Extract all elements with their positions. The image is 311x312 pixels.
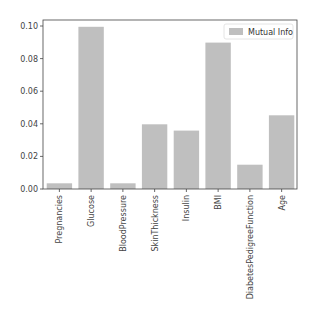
bar-pregnancies bbox=[47, 183, 72, 189]
y-axis: 0.000.020.040.060.080.10 bbox=[20, 22, 43, 194]
x-tick-label: BMI bbox=[214, 195, 223, 210]
bar-skinthickness bbox=[142, 124, 167, 189]
x-tick-label: SkinThickness bbox=[151, 195, 160, 252]
legend: Mutual Info bbox=[224, 24, 293, 39]
bar-bloodpressure bbox=[110, 183, 135, 189]
x-axis: PregnanciesGlucoseBloodPressureSkinThick… bbox=[55, 189, 286, 299]
y-tick-label: 0.02 bbox=[20, 152, 38, 161]
bars bbox=[47, 27, 295, 189]
y-tick-label: 0.04 bbox=[20, 120, 38, 129]
x-tick-label: BloodPressure bbox=[119, 195, 128, 252]
bar-age bbox=[269, 115, 294, 189]
legend-swatch bbox=[229, 28, 243, 35]
y-tick-label: 0.00 bbox=[20, 185, 38, 194]
x-tick-label: Age bbox=[278, 195, 287, 211]
x-tick-label: Pregnancies bbox=[55, 195, 64, 244]
x-tick-label: Insulin bbox=[182, 195, 191, 221]
x-tick-label: Glucose bbox=[87, 195, 96, 227]
bar-glucose bbox=[78, 27, 103, 189]
bar-bmi bbox=[205, 43, 230, 189]
x-tick-label: DiabetesPedigreeFunction bbox=[246, 195, 255, 299]
y-tick-label: 0.06 bbox=[20, 87, 38, 96]
y-tick-label: 0.08 bbox=[20, 55, 38, 64]
y-tick-label: 0.10 bbox=[20, 22, 38, 31]
mutual-info-bar-chart: 0.000.020.040.060.080.10 PregnanciesGluc… bbox=[0, 0, 311, 312]
legend-label: Mutual Info bbox=[248, 28, 293, 37]
bar-insulin bbox=[174, 131, 199, 189]
bar-diabetespedigreefunction bbox=[237, 165, 262, 189]
